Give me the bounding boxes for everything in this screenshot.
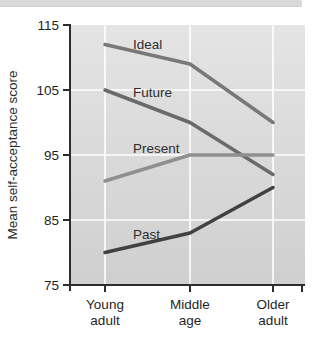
y-tick-label: 95: [44, 148, 59, 163]
series-label-present: Present: [133, 141, 180, 156]
series-label-future: Future: [133, 85, 172, 100]
y-tick-label: 85: [44, 213, 59, 228]
series-label-past: Past: [133, 227, 160, 242]
y-axis-title: Mean self-acceptance score: [5, 71, 20, 240]
x-category-label: Youngadult: [86, 297, 124, 328]
figure: IdealFuturePresentPast758595105115Younga…: [0, 0, 321, 342]
series-label-ideal: Ideal: [133, 37, 162, 52]
x-category-label: Olderadult: [256, 297, 290, 328]
self-acceptance-line-chart: IdealFuturePresentPast758595105115Younga…: [0, 0, 321, 342]
y-tick-label: 105: [36, 83, 59, 98]
y-tick-label: 75: [44, 278, 59, 293]
y-tick-label: 115: [37, 18, 59, 33]
x-category-label: Middleage: [170, 297, 210, 328]
